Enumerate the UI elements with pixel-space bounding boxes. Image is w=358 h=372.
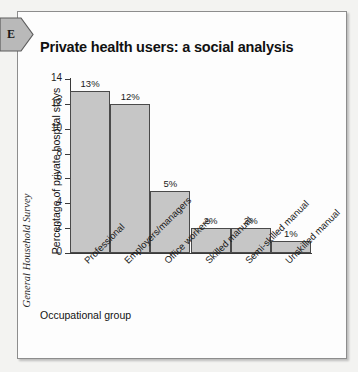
y-tick-label: 2 — [22, 221, 62, 232]
y-tick-label: 6 — [22, 171, 62, 182]
section-tab-letter: E — [7, 27, 15, 42]
chart-page: E General Household Survey Private healt… — [0, 0, 358, 372]
bar-value-label: 5% — [150, 178, 190, 189]
bar — [70, 91, 110, 253]
y-tick-label: 14 — [22, 72, 62, 83]
tab-arrow-icon — [0, 17, 34, 52]
x-axis-line — [70, 253, 312, 254]
bar-value-label: 13% — [70, 78, 110, 89]
y-tick-mark — [65, 253, 70, 254]
section-tab-marker: E — [0, 17, 34, 52]
y-tick-label: 4 — [22, 196, 62, 207]
y-tick-label: 10 — [22, 122, 62, 133]
bar-value-label: 12% — [110, 91, 150, 102]
y-tick-label: 8 — [22, 147, 62, 158]
y-tick-label: 12 — [22, 97, 62, 108]
y-tick-label: 0 — [22, 246, 62, 257]
chart-title: Private health users: a social analysis — [40, 39, 293, 55]
x-axis-title: Occupational group — [40, 309, 131, 321]
